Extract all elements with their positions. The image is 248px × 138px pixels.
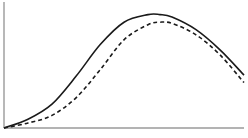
solid-curve [4,14,244,128]
line-chart [0,0,248,138]
